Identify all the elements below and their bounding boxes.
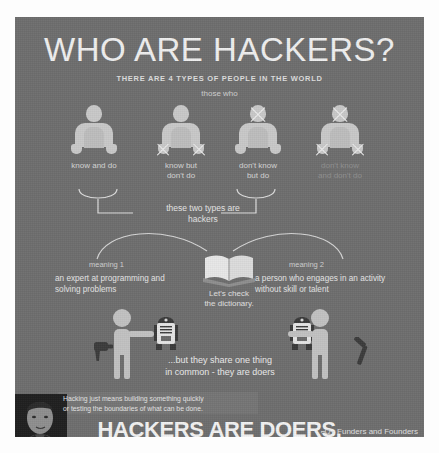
person-label-line1: don't know: [223, 161, 293, 171]
dictionary-caption-line2: the dictionary.: [190, 299, 268, 309]
hand-right-icon: [106, 144, 117, 154]
person-figure: [154, 105, 208, 155]
doers-statement: ...but they share one thing in common - …: [125, 354, 315, 378]
quote-text: Hacking just means building something qu…: [63, 394, 263, 413]
quote-line1: Hacking just means building something qu…: [63, 394, 263, 404]
x-mark-head-icon: [330, 103, 350, 124]
robot-icon: [151, 311, 181, 355]
meaning-1-body: an expert at programming and solving pro…: [55, 273, 185, 295]
doers-statement-line1: ...but they share one thing: [125, 354, 315, 366]
person-label-line2: don't do: [146, 171, 216, 181]
x-mark-hand-right-icon: [350, 141, 366, 157]
subtitle: THERE ARE 4 TYPES OF PEOPLE IN THE WORLD: [15, 74, 424, 83]
brand-name: Funders and Founders: [337, 427, 418, 436]
person-label: don't know but do: [223, 161, 293, 181]
hand-right-icon: [270, 144, 281, 154]
head-icon: [86, 105, 102, 122]
head-icon: [173, 105, 189, 122]
meaning-2-title: meaning 2: [289, 260, 324, 269]
page-title: WHO ARE HACKERS?: [15, 31, 424, 69]
hand-left-icon: [235, 144, 246, 154]
hammer-icon: [353, 337, 375, 367]
x-mark-head-icon: [248, 103, 268, 124]
head-icon: [113, 309, 131, 327]
person-label: know but don't do: [146, 161, 216, 181]
arm-icon: [288, 331, 314, 337]
bracket-label-line2: hackers: [133, 214, 273, 225]
hand-left-icon: [71, 144, 82, 154]
infographic-poster: WHO ARE HACKERS? THERE ARE 4 TYPES OF PE…: [15, 17, 424, 437]
brand-logo[interactable]: ⌐Ω¬ Funders and Founders: [321, 427, 418, 436]
person-label-line1: don't know: [305, 161, 375, 171]
person-label: don't know and don't do: [305, 161, 375, 181]
x-mark-hand-right-icon: [191, 141, 207, 157]
person-type-4: don't know and don't do: [305, 105, 375, 181]
doers-statement-line2: in common - they are doers: [125, 366, 315, 378]
person-label-line1: know but: [146, 161, 216, 171]
person-label-line2: but do: [223, 171, 293, 181]
person-label-line1: know and do: [59, 161, 129, 171]
dictionary-book-icon: [201, 253, 257, 287]
intro-text: those who: [15, 89, 424, 98]
person-figure: [67, 105, 121, 155]
person-type-2: know but don't do: [146, 105, 216, 181]
person-figure: [313, 105, 367, 155]
torso-icon: [312, 329, 328, 355]
x-mark-hand-left-icon: [314, 141, 330, 157]
brand-mark-icon: ⌐Ω¬: [321, 427, 333, 436]
head-icon: [311, 309, 329, 327]
person-type-3: don't know but do: [223, 105, 293, 181]
hacker-bracket-label: these two types are hackers: [133, 203, 273, 225]
meaning-2-body: a person who engages in an activity with…: [255, 273, 405, 295]
person-figure: [231, 105, 285, 155]
x-mark-hand-left-icon: [155, 141, 171, 157]
bracket-label-line1: these two types are: [133, 203, 273, 214]
meaning-1-title: meaning 1: [89, 260, 124, 269]
person-type-1: know and do: [59, 105, 129, 171]
quote-line2: or testing the boundaries of what can be…: [63, 404, 263, 414]
leg-icon: [114, 353, 120, 379]
person-label: know and do: [59, 161, 129, 171]
leg-icon: [322, 353, 328, 379]
person-label-line2: and don't do: [305, 171, 375, 181]
